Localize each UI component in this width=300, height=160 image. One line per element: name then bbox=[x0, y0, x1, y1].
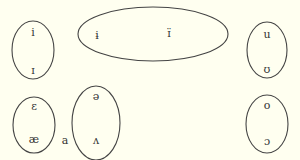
vowel-group-high-back: uʊ bbox=[247, 22, 287, 78]
vowel-symbol: ə bbox=[93, 90, 100, 103]
vowel-symbol: u bbox=[263, 28, 270, 41]
vowel-symbol: i bbox=[31, 26, 35, 39]
vowel-symbol: ʊ bbox=[264, 63, 271, 76]
vowel-symbol: ʌ bbox=[92, 134, 100, 147]
vowel-symbol: æ bbox=[29, 133, 39, 146]
vowel-group-high-front: iɪ bbox=[12, 21, 54, 79]
vowel-group-low-front: ɛæ bbox=[13, 97, 55, 153]
vowel-symbol: ɔ bbox=[264, 135, 270, 148]
vowel-symbol: ɨ bbox=[95, 29, 99, 42]
vowel-symbol: ɪ bbox=[31, 64, 35, 77]
vowel-symbol: o bbox=[264, 99, 271, 112]
vowel-chart: iɪɨɪ̈uʊɛæəʌoɔa bbox=[0, 0, 300, 160]
vowel-symbol: ɛ bbox=[31, 100, 37, 113]
vowel-symbol: ɪ̈ bbox=[167, 27, 171, 40]
ellipse-high-central bbox=[78, 7, 228, 61]
vowel-symbol-standalone: a bbox=[62, 134, 69, 147]
vowel-group-mid-back: oɔ bbox=[246, 95, 288, 153]
vowel-group-mid-central: əʌ bbox=[72, 86, 120, 160]
vowel-group-high-central: ɨɪ̈ bbox=[78, 7, 228, 61]
